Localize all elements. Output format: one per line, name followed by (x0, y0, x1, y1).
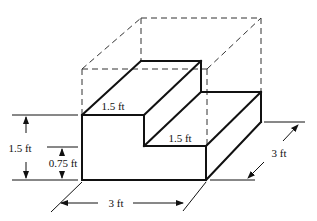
step-block-diagram: 1.5 ft 0.75 ft 3 ft 3 ft 1.5 ft 1.5 ft (0, 0, 317, 221)
top-step-depth-label: 1.5 ft (101, 100, 124, 112)
lower-step-height-label: 0.75 ft (49, 157, 78, 169)
width-dimension: 3 ft (51, 182, 206, 212)
length-label: 3 ft (272, 147, 287, 159)
dashed-bounding-box (82, 18, 261, 146)
length-dimension: 3 ft (210, 122, 305, 180)
total-height-label: 1.5 ft (8, 142, 31, 154)
step-block (82, 61, 261, 180)
width-label: 3 ft (109, 197, 124, 209)
lower-step-height-dimension: 0.75 ft (46, 147, 80, 178)
lower-step-depth-label: 1.5 ft (168, 132, 191, 144)
